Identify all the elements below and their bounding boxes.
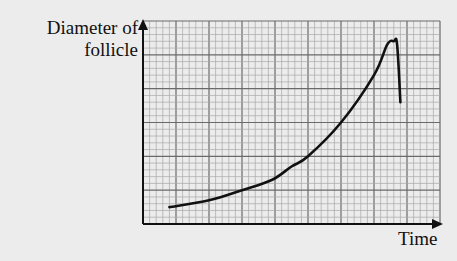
x-axis-arrow-icon	[432, 219, 443, 229]
grid	[143, 21, 440, 224]
chart-plot	[0, 0, 457, 261]
